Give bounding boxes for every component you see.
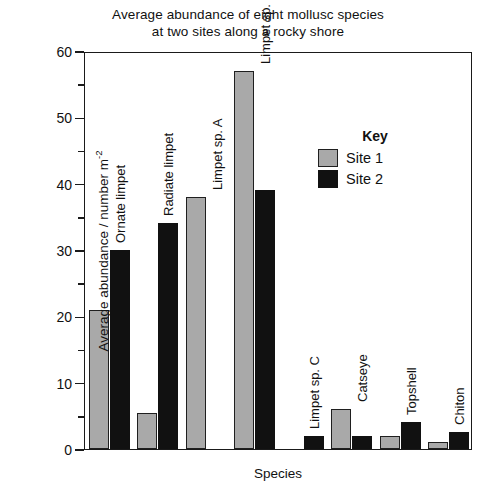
bar-site-2: [158, 223, 178, 449]
y-axis-title-exponent: -2: [93, 150, 104, 158]
y-axis-tick-label: 50: [56, 110, 72, 126]
y-axis-tick-label: 40: [56, 177, 72, 193]
bar-group: Limpet sp. C: [279, 53, 328, 449]
y-axis-title-text: Average abundance / number m: [96, 159, 111, 352]
bar-site-2: [352, 436, 372, 449]
bar-site-1: [186, 197, 206, 449]
y-axis-tick-label: 10: [56, 376, 72, 392]
bar-group: Catseye: [328, 53, 377, 449]
bar-group: Topshell: [376, 53, 425, 449]
legend-label-site-1: Site 1: [346, 150, 383, 166]
chart-title-line-2: at two sites along a rocky shore: [0, 23, 496, 40]
y-axis-tick-major: [75, 250, 84, 252]
y-axis-tick-label: 60: [56, 44, 72, 60]
y-axis-title: Average abundance / number m-2: [93, 81, 111, 421]
bars-layer: Ornate limpetRadiate limpetLimpet sp. AL…: [85, 53, 471, 449]
category-label: Limpet sp. A: [210, 118, 225, 190]
y-axis: Average abundance / number m-2 010203040…: [84, 52, 85, 450]
y-axis-tick-major: [75, 51, 84, 53]
y-axis-tick-minor: [78, 283, 84, 285]
category-label: Limpet sp. C: [307, 356, 322, 429]
y-axis-tick-label: 20: [56, 309, 72, 325]
category-label: Limpet sp. B: [258, 0, 273, 64]
y-axis-tick-major: [75, 383, 84, 385]
bar-site-1: [428, 442, 448, 449]
category-label: Radiate limpet: [161, 133, 176, 216]
y-axis-tick-minor: [78, 84, 84, 86]
category-label: Topshell: [404, 368, 419, 416]
bar-chart: Average abundance of eight mollusc speci…: [0, 0, 496, 496]
bar-site-1: [137, 413, 157, 449]
bar-site-2: [401, 422, 421, 449]
legend-swatch-site-1: [318, 149, 338, 167]
bar-site-1: [380, 436, 400, 449]
bar-site-2: [255, 190, 275, 449]
bar-site-1: [331, 409, 351, 449]
category-label: Catseye: [355, 355, 370, 403]
y-axis-tick-major: [75, 118, 84, 120]
legend: Key Site 1 Site 2: [318, 128, 438, 191]
x-axis-title: Species: [84, 466, 472, 481]
y-axis-tick-major: [75, 184, 84, 186]
y-axis-tick-major: [75, 449, 84, 451]
plot-area: Ornate limpetRadiate limpetLimpet sp. AL…: [84, 52, 472, 450]
bar-group: Limpet sp. A: [182, 53, 231, 449]
legend-item-site-1: Site 1: [318, 149, 438, 167]
y-axis-tick-minor: [78, 350, 84, 352]
legend-swatch-site-2: [318, 170, 338, 188]
legend-title: Key: [332, 128, 418, 144]
chart-title-line-1: Average abundance of eight mollusc speci…: [0, 6, 496, 23]
bar-site-2: [110, 250, 130, 449]
legend-label-site-2: Site 2: [346, 171, 383, 187]
bar-site-2: [304, 436, 324, 449]
y-axis-tick-major: [75, 317, 84, 319]
category-label: Ornate limpet: [113, 165, 128, 243]
bar-group: Limpet sp. B: [231, 53, 280, 449]
y-axis-tick-label: 0: [64, 442, 72, 458]
y-axis-tick-minor: [78, 151, 84, 153]
legend-item-site-2: Site 2: [318, 170, 438, 188]
y-axis-tick-label: 30: [56, 243, 72, 259]
bar-site-1: [234, 71, 254, 449]
y-axis-tick-minor: [78, 217, 84, 219]
category-label: Chiton: [452, 388, 467, 426]
y-axis-tick-minor: [78, 416, 84, 418]
chart-title: Average abundance of eight mollusc speci…: [0, 6, 496, 40]
bar-group: Radiate limpet: [134, 53, 183, 449]
bar-site-2: [449, 432, 469, 449]
bar-group: Chiton: [425, 53, 474, 449]
